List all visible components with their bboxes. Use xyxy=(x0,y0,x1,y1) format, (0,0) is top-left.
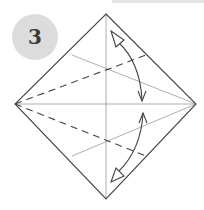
upper-valley-fold-line xyxy=(15,55,146,104)
lower-diagonal-crease xyxy=(72,104,196,156)
hollow-arrowhead-icon xyxy=(111,168,124,182)
hollow-arrowhead-icon xyxy=(111,31,124,47)
lower-valley-fold-line xyxy=(15,104,146,156)
origami-diagram xyxy=(0,0,204,210)
upper-diagonal-crease xyxy=(72,55,196,104)
lower-fold-and-unfold-arrow xyxy=(111,113,147,182)
paper-outline xyxy=(15,14,196,199)
